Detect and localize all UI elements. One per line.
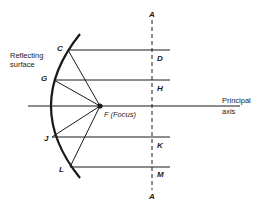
mirror-diagram: Reflecting surface Principal axis F (Foc… [0, 0, 270, 209]
reflecting-surface-label-2: surface [10, 60, 35, 69]
principal-axis-label-2: axis [222, 107, 236, 116]
point-c: C [57, 44, 63, 53]
principal-axis-label: Principal [222, 96, 251, 105]
point-j: J [44, 134, 49, 143]
point-l: L [59, 165, 64, 174]
focus-label: F (Focus) [104, 110, 136, 119]
point-a-top: A [148, 10, 155, 19]
point-k: K [157, 141, 164, 150]
focus-point [97, 103, 102, 108]
reflected-ray-c [68, 50, 100, 106]
point-d: D [157, 54, 163, 63]
point-m: M [157, 170, 164, 179]
point-g: G [41, 74, 47, 83]
reflecting-surface-label: Reflecting [10, 51, 43, 60]
point-h: H [157, 84, 163, 93]
point-a-bottom: A [148, 192, 155, 201]
